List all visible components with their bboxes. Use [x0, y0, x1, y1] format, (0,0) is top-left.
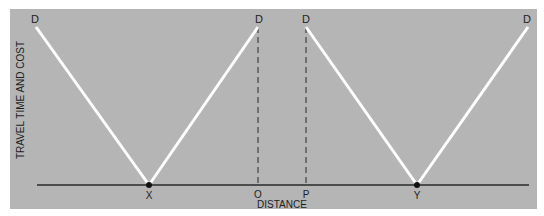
x-axis-title: DISTANCE	[257, 199, 307, 210]
label-d3: D	[302, 13, 310, 25]
label-y: Y	[414, 190, 421, 201]
label-d4: D	[523, 13, 531, 25]
label-d2: D	[255, 13, 263, 25]
label-x: X	[146, 190, 153, 201]
travel-cost-diagram: D D D D X O P Y DISTANCE TRAVEL TIME AND…	[0, 0, 544, 216]
diagram-panel	[10, 9, 537, 209]
y-axis-title: TRAVEL TIME AND COST	[15, 41, 26, 159]
label-d1: D	[31, 13, 39, 25]
point-y-marker	[414, 182, 420, 188]
point-x-marker	[146, 182, 152, 188]
